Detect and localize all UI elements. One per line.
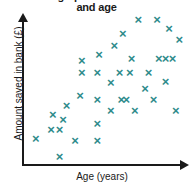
data-point bbox=[165, 24, 174, 33]
data-point bbox=[171, 106, 180, 115]
data-point bbox=[93, 68, 102, 77]
data-point bbox=[161, 77, 170, 86]
data-point bbox=[55, 152, 64, 161]
data-point bbox=[122, 95, 131, 104]
x-axis-label: Age (years) bbox=[22, 171, 182, 182]
data-point bbox=[115, 68, 124, 77]
data-point bbox=[106, 106, 115, 115]
data-point bbox=[71, 136, 80, 145]
data-point bbox=[93, 95, 102, 104]
data-point bbox=[106, 78, 115, 87]
data-point bbox=[93, 119, 102, 128]
data-point bbox=[175, 35, 184, 44]
data-point bbox=[77, 68, 86, 77]
data-point bbox=[125, 68, 134, 77]
scatter-chart: Scatter graph of amount saved and age Am… bbox=[0, 0, 193, 187]
data-point bbox=[141, 84, 150, 93]
chart-title: Scatter graph of amount saved and age bbox=[0, 0, 193, 13]
data-point bbox=[31, 134, 40, 143]
plot-area bbox=[22, 15, 193, 166]
data-point bbox=[93, 136, 102, 145]
data-point bbox=[153, 15, 162, 24]
data-point bbox=[94, 50, 103, 59]
data-point bbox=[76, 91, 85, 100]
data-point bbox=[110, 41, 119, 50]
data-point bbox=[118, 29, 127, 38]
data-point bbox=[130, 106, 139, 115]
data-point bbox=[144, 68, 153, 77]
data-point bbox=[127, 54, 136, 63]
data-point bbox=[77, 56, 86, 65]
data-point bbox=[62, 101, 71, 110]
data-point bbox=[134, 15, 143, 24]
data-point bbox=[48, 110, 57, 119]
data-point bbox=[59, 115, 68, 124]
data-point bbox=[149, 95, 158, 104]
data-point bbox=[168, 54, 177, 63]
